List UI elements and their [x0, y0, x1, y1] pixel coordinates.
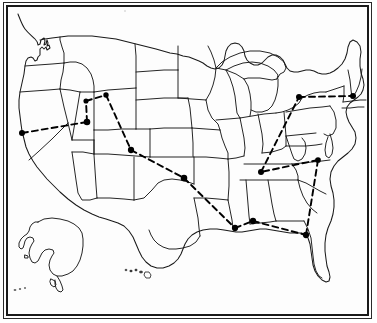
illinois-kentucky-border	[228, 156, 244, 159]
city-markers-layer	[19, 92, 356, 238]
marker-montana-wyoming[interactable]	[103, 92, 108, 97]
maryland-virginia-border	[286, 144, 322, 146]
marker-florida-tampa[interactable]	[303, 232, 309, 238]
alaska-inset-layer	[19, 218, 83, 292]
hawaii-island-big-island	[144, 272, 151, 278]
tennessee-north-carolina-border	[292, 164, 298, 180]
marker-boston-northeast[interactable]	[350, 93, 356, 99]
alaska-small-island-west	[25, 255, 28, 258]
missouri-arkansas-border	[193, 157, 228, 159]
route-bay-area-to-salt-lake	[22, 122, 87, 133]
marker-salt-lake-city[interactable]	[84, 119, 91, 126]
alabama-georgia-border	[268, 180, 276, 221]
michigan-upper-peninsula	[226, 62, 278, 80]
aleutian-dot-1	[14, 289, 17, 291]
marker-west-coast-bay-area[interactable]	[19, 130, 25, 136]
wyoming-south-border	[94, 129, 136, 130]
nevada-idaho-border	[60, 89, 80, 92]
washington-oregon-border	[25, 63, 64, 66]
marker-new-orleans[interactable]	[232, 225, 238, 231]
aleutian-dots-layer	[14, 287, 26, 291]
pennsylvania-maryland-border	[286, 133, 316, 136]
route-idaho-to-montana	[86, 95, 106, 101]
route-arkansas-to-new-orleans	[184, 178, 235, 228]
new-mexico-texas-border	[97, 198, 134, 200]
marker-mobile-pensacola[interactable]	[250, 218, 256, 224]
arizona-new-mexico-border	[94, 140, 97, 198]
west-virginia-outline	[286, 136, 306, 161]
arkansas-louisiana-mississippi-border	[194, 198, 228, 200]
route-tennessee-to-great-lakes	[261, 97, 299, 172]
marker-tennessee-nashville[interactable]	[258, 169, 264, 175]
delmarva-peninsula	[325, 134, 333, 158]
washington-idaho-border	[60, 37, 64, 63]
new-york-north-border	[326, 86, 344, 92]
arkansas-mississippi-border	[228, 159, 229, 200]
north-dakota-south-dakota-border	[136, 70, 178, 72]
iowa-missouri-border	[192, 128, 220, 130]
route-great-lakes-to-boston	[299, 96, 353, 97]
marker-carolina-coast[interactable]	[315, 157, 321, 163]
hawaii-island-1	[125, 269, 127, 271]
nebraska-kansas-border	[150, 128, 192, 129]
massachusetts-north-border	[343, 100, 366, 102]
oklahoma-texas-border	[134, 179, 194, 200]
hawaii-island-2	[130, 270, 133, 272]
oregon-california-border	[20, 89, 60, 92]
route-denver-to-arkansas	[131, 150, 184, 178]
illinois-indiana-border	[240, 118, 245, 156]
nebraska-iowa-border	[188, 98, 192, 128]
nevada-utah-border	[72, 92, 80, 140]
new-jersey-outline	[324, 106, 336, 136]
aleutian-dot-2	[19, 288, 21, 289]
travel-routes-layer	[22, 95, 353, 235]
arizona-south-border	[72, 152, 97, 200]
missouri-illinois-border	[220, 130, 228, 159]
montana-north-dakota-border	[135, 44, 136, 88]
route-montana-to-denver	[106, 95, 131, 150]
alaska-outline	[19, 218, 83, 276]
ohio-pennsylvania-border	[284, 112, 286, 146]
contiguous-us-outline	[18, 14, 364, 282]
minnesota-iowa-border	[178, 98, 206, 100]
new-york-vermont-border	[343, 86, 344, 102]
wisconsin-illinois-border	[216, 118, 240, 120]
mississippi-alabama-border	[246, 180, 250, 224]
montana-wyoming-border	[94, 88, 136, 92]
texas-gulf-coast	[149, 230, 200, 249]
state-outlines-layer	[18, 14, 366, 282]
connecticut-massachusetts-border	[342, 107, 364, 108]
ohio-kentucky-border	[262, 146, 286, 153]
minnesota-wisconsin-border	[206, 46, 216, 100]
louisiana-texas-border	[194, 198, 200, 236]
route-florida-to-carolina	[306, 160, 318, 235]
michigan-lower-peninsula-east	[251, 79, 278, 112]
us-map-canvas	[0, 0, 377, 323]
hawaii-inset-layer	[125, 269, 151, 278]
hawaii-island-3	[135, 269, 137, 271]
lake-michigan-west-shore	[226, 70, 240, 118]
map-figure	[0, 0, 377, 323]
utah-south-border	[72, 152, 94, 154]
hawaii-island-4	[139, 271, 142, 273]
iowa-illinois-border	[206, 100, 220, 130]
lake-michigan-east-shore	[244, 79, 251, 116]
aleutian-dot-3	[24, 287, 26, 288]
oregon-idaho-border	[60, 63, 64, 89]
marker-denver[interactable]	[128, 147, 134, 153]
marker-great-lakes-detroit[interactable]	[296, 94, 302, 100]
idaho-montana-border	[64, 62, 94, 92]
california-nevada-border	[60, 89, 68, 123]
marker-arkansas-oklahoma[interactable]	[181, 175, 188, 182]
marker-idaho[interactable]	[83, 98, 88, 103]
indiana-ohio-border	[258, 114, 263, 153]
kansas-missouri-border	[192, 128, 193, 157]
